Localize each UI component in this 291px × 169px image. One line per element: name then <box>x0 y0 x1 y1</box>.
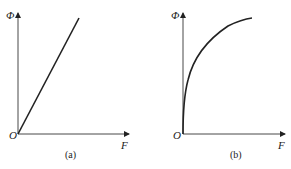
panel-a-x-label: F <box>120 139 128 151</box>
panel-a-caption: (a) <box>65 149 76 161</box>
panel-b-y-label: Φ <box>171 9 180 21</box>
panel-a-y-label: Φ <box>6 9 15 21</box>
panel-b-x-label: F <box>277 139 285 151</box>
figure: Φ O F (a) Φ O F (b) <box>0 0 291 169</box>
panel-a-linear-curve <box>18 18 79 134</box>
panel-b: Φ O F (b) <box>171 9 285 161</box>
panel-b-origin-label: O <box>173 129 181 141</box>
panel-a: Φ O F (a) <box>6 9 129 161</box>
panel-b-caption: (b) <box>230 149 242 161</box>
panel-a-origin-label: O <box>9 129 17 141</box>
panel-b-saturation-curve <box>183 18 252 134</box>
